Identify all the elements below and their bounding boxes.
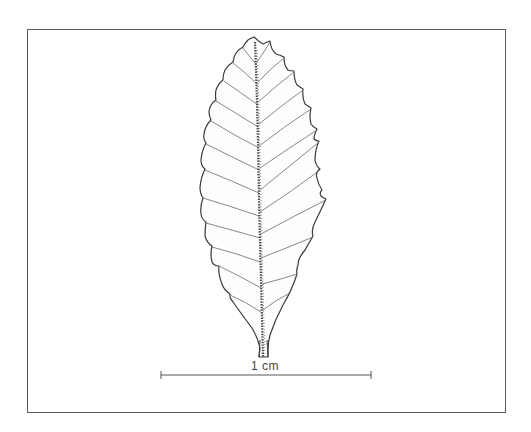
leaf-outline (200, 37, 326, 357)
scale-bar-label: 1 cm (235, 359, 295, 373)
